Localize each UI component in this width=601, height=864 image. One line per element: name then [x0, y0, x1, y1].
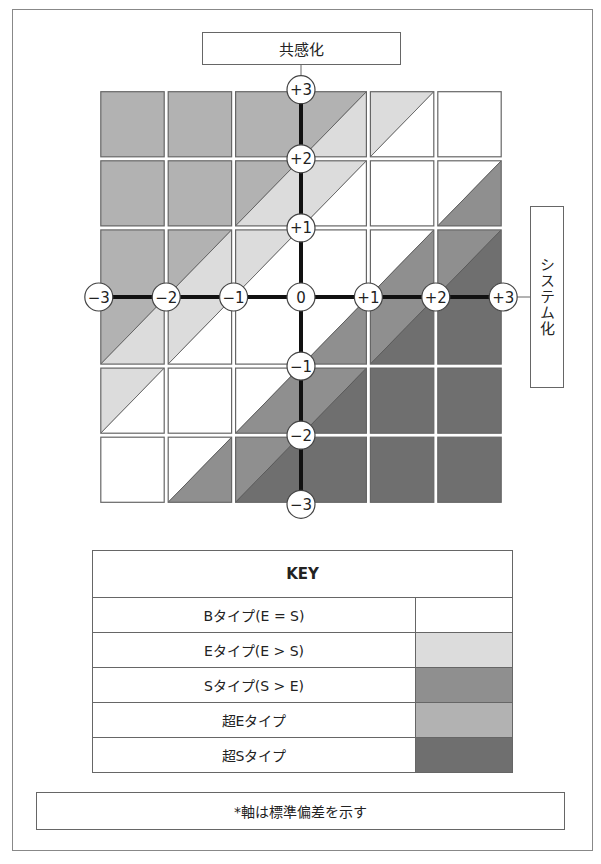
svg-text:+2: +2 — [425, 289, 447, 307]
key-row-e: Eタイプ(E > S) — [93, 633, 513, 668]
x-axis-tick: −1 — [220, 283, 248, 311]
systemizing-axis-label: システム化 — [530, 206, 564, 388]
svg-text:+3: +3 — [290, 81, 312, 99]
key-swatch-s — [416, 668, 513, 703]
key-swatch-b — [416, 598, 513, 633]
svg-text:−1: −1 — [290, 358, 312, 376]
footnote-text: *軸は標準偏差を示す — [234, 801, 367, 821]
key-swatch-e — [416, 633, 513, 668]
key-row-extreme-e: 超Eタイプ — [93, 703, 513, 738]
key-row-b: Bタイプ(E = S) — [93, 598, 513, 633]
svg-text:−3: −3 — [290, 496, 312, 514]
key-header: KEY — [93, 551, 513, 598]
x-axis-tick: +3 — [489, 283, 517, 311]
x-axis-tick: −2 — [152, 283, 180, 311]
svg-text:−2: −2 — [155, 289, 177, 307]
y-axis-tick: −2 — [287, 421, 315, 449]
footnote: *軸は標準偏差を示す — [36, 792, 565, 830]
empathizing-label-text: 共感化 — [279, 38, 324, 59]
svg-text:+1: +1 — [357, 289, 379, 307]
y-axis-tick: +3 — [287, 76, 315, 104]
svg-text:−3: −3 — [88, 289, 110, 307]
y-axis-tick: +2 — [287, 145, 315, 173]
key-row-extreme-s: 超Sタイプ — [93, 738, 513, 773]
key-row-s: Sタイプ(S > E) — [93, 668, 513, 703]
svg-text:0: 0 — [296, 289, 306, 307]
key-table: KEY Bタイプ(E = S) Eタイプ(E > S) Sタイプ(S > E) … — [92, 550, 513, 773]
x-axis-tick: +2 — [422, 283, 450, 311]
svg-text:−1: −1 — [223, 289, 245, 307]
empathizing-axis-label: 共感化 — [202, 32, 401, 65]
svg-text:+3: +3 — [492, 289, 514, 307]
key-label: Eタイプ(E > S) — [93, 633, 416, 668]
y-axis-tick: −1 — [287, 352, 315, 380]
x-axis-tick: −3 — [85, 283, 113, 311]
svg-text:+2: +2 — [290, 150, 312, 168]
key-swatch-extreme-s — [416, 738, 513, 773]
y-axis-tick: −3 — [287, 490, 315, 518]
systemizing-label-text: システム化 — [537, 257, 558, 337]
key-label: Sタイプ(S > E) — [93, 668, 416, 703]
type-diagram: −3−2−10+1+2+3+3+2+1−1−2−3 — [0, 0, 601, 540]
svg-text:+1: +1 — [290, 219, 312, 237]
x-axis-tick: +1 — [354, 283, 382, 311]
key-label: 超Sタイプ — [93, 738, 416, 773]
key-label: 超Eタイプ — [93, 703, 416, 738]
key-label: Bタイプ(E = S) — [93, 598, 416, 633]
y-axis-tick: +1 — [287, 214, 315, 242]
svg-text:−2: −2 — [290, 427, 312, 445]
key-swatch-extreme-e — [416, 703, 513, 738]
x-axis-tick: 0 — [287, 283, 315, 311]
